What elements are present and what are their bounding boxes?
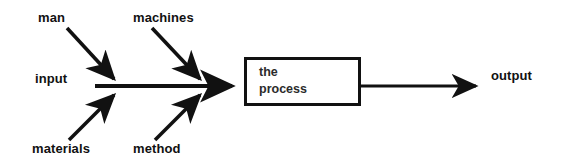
label-machines: machines (133, 10, 194, 25)
diagram-canvas: the process man machines input materials… (0, 0, 565, 168)
label-output: output (491, 68, 532, 83)
method-arrow (155, 95, 200, 140)
machines-arrow-line (152, 28, 200, 79)
man-arrow-line (67, 28, 114, 79)
label-man: man (38, 10, 65, 25)
method-arrow-line (155, 95, 200, 140)
label-materials: materials (32, 141, 90, 156)
label-method: method (133, 141, 181, 156)
man-arrow (67, 28, 114, 79)
process-box: the process (244, 57, 361, 106)
materials-arrow (69, 95, 114, 140)
process-box-label: the process (259, 64, 307, 98)
machines-arrow (152, 28, 200, 79)
label-input: input (35, 71, 67, 86)
materials-arrow-line (69, 95, 114, 140)
